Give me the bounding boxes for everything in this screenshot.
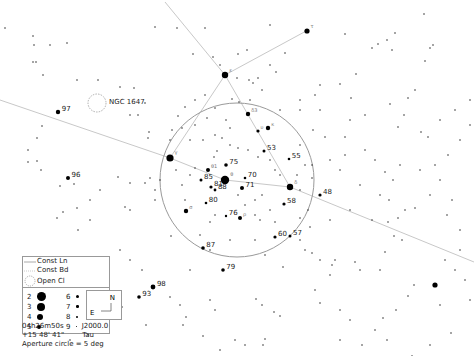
- star[interactable]: [331, 264, 333, 266]
- star[interactable]: [359, 184, 361, 186]
- star[interactable]: [350, 97, 352, 99]
- bright-star[interactable]: [238, 216, 242, 220]
- star[interactable]: [59, 185, 61, 187]
- star[interactable]: [282, 266, 284, 268]
- star[interactable]: [66, 42, 68, 44]
- star[interactable]: [344, 33, 346, 35]
- star[interactable]: [329, 159, 331, 161]
- star[interactable]: [206, 117, 208, 119]
- star[interactable]: [4, 27, 6, 29]
- star[interactable]: [257, 156, 259, 158]
- star[interactable]: [219, 64, 221, 66]
- labeled-star[interactable]: [200, 179, 203, 182]
- labeled-star[interactable]: [137, 295, 141, 299]
- star[interactable]: [257, 77, 259, 79]
- star[interactable]: [169, 139, 171, 141]
- star[interactable]: [176, 27, 178, 29]
- star[interactable]: [424, 60, 426, 62]
- star[interactable]: [124, 206, 126, 208]
- star[interactable]: [420, 131, 422, 133]
- labeled-star[interactable]: [244, 177, 247, 180]
- star[interactable]: [33, 44, 35, 46]
- star[interactable]: [379, 194, 381, 196]
- star[interactable]: [314, 289, 316, 291]
- star[interactable]: [229, 127, 231, 129]
- star[interactable]: [237, 53, 239, 55]
- star[interactable]: [395, 309, 397, 311]
- star[interactable]: [339, 309, 341, 311]
- star[interactable]: [299, 99, 301, 101]
- labeled-star[interactable]: [225, 215, 227, 217]
- star[interactable]: [269, 159, 271, 161]
- star[interactable]: [261, 304, 263, 306]
- star[interactable]: [244, 204, 246, 206]
- star[interactable]: [249, 99, 251, 101]
- star[interactable]: [334, 259, 336, 261]
- star[interactable]: [189, 139, 191, 141]
- star[interactable]: [184, 199, 186, 201]
- star[interactable]: [159, 179, 161, 181]
- star[interactable]: [364, 114, 366, 116]
- star[interactable]: [77, 229, 79, 231]
- star[interactable]: [246, 49, 248, 51]
- star[interactable]: [40, 169, 42, 171]
- star[interactable]: [361, 344, 363, 346]
- star[interactable]: [299, 144, 301, 146]
- star[interactable]: [299, 189, 301, 191]
- star[interactable]: [35, 61, 37, 63]
- star[interactable]: [56, 217, 58, 219]
- star[interactable]: [279, 109, 281, 111]
- star[interactable]: [27, 149, 29, 151]
- star[interactable]: [374, 329, 376, 331]
- bright-star[interactable]: [222, 72, 228, 78]
- star[interactable]: [319, 259, 321, 261]
- star[interactable]: [49, 44, 51, 46]
- star[interactable]: [407, 97, 409, 99]
- star[interactable]: [419, 169, 421, 171]
- star[interactable]: [344, 136, 346, 138]
- star[interactable]: [439, 304, 441, 306]
- star[interactable]: [274, 169, 276, 171]
- star[interactable]: [319, 109, 321, 111]
- star[interactable]: [414, 89, 416, 91]
- star[interactable]: [229, 239, 231, 241]
- star[interactable]: [439, 119, 441, 121]
- labeled-star[interactable]: [201, 246, 205, 250]
- star[interactable]: [41, 125, 43, 127]
- star[interactable]: [42, 74, 44, 76]
- star[interactable]: [129, 209, 131, 211]
- star[interactable]: [329, 274, 331, 276]
- star[interactable]: [117, 176, 119, 178]
- star[interactable]: [284, 52, 286, 54]
- star[interactable]: [309, 226, 311, 228]
- star[interactable]: [339, 339, 341, 341]
- star[interactable]: [170, 235, 172, 237]
- star[interactable]: [393, 235, 395, 237]
- star[interactable]: [314, 94, 316, 96]
- bright-star[interactable]: [184, 209, 188, 213]
- star[interactable]: [299, 217, 301, 219]
- star[interactable]: [214, 214, 216, 216]
- star[interactable]: [423, 13, 425, 15]
- star[interactable]: [384, 251, 386, 253]
- star[interactable]: [304, 164, 306, 166]
- star[interactable]: [397, 217, 399, 219]
- star-chart[interactable]: NGC 1647εγθδτδ3κυσρθ19796757071858188807…: [0, 0, 474, 356]
- star[interactable]: [194, 167, 196, 169]
- star[interactable]: [202, 335, 204, 337]
- star[interactable]: [434, 164, 436, 166]
- star[interactable]: [181, 184, 183, 186]
- star[interactable]: [219, 349, 221, 351]
- star[interactable]: [349, 319, 351, 321]
- star[interactable]: [304, 249, 306, 251]
- star[interactable]: [262, 344, 264, 346]
- star[interactable]: [469, 299, 471, 301]
- star[interactable]: [307, 209, 309, 211]
- star[interactable]: [464, 279, 466, 281]
- labeled-star[interactable]: [56, 110, 60, 114]
- star[interactable]: [379, 269, 381, 271]
- star[interactable]: [185, 316, 187, 318]
- star[interactable]: [119, 86, 121, 88]
- star[interactable]: [254, 214, 256, 216]
- star[interactable]: [129, 182, 131, 184]
